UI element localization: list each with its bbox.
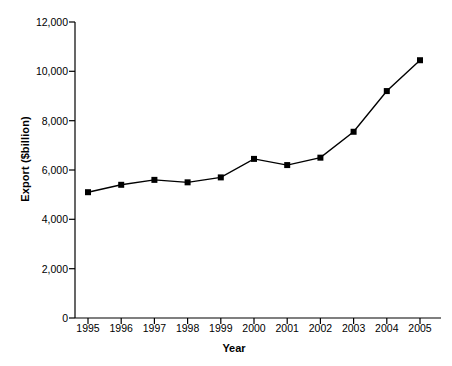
- y-axis-ticks: [69, 22, 75, 318]
- data-point-marker: [284, 162, 290, 168]
- export-line-chart: Export ($billion) 12,000 10,000 8,000 6,…: [0, 0, 452, 366]
- data-series-line: [88, 60, 420, 192]
- x-tick-label-2001: 2001: [276, 322, 299, 334]
- data-point-marker: [384, 88, 390, 94]
- x-tick-label-2000: 2000: [242, 322, 265, 334]
- x-tick-label-2003: 2003: [342, 322, 365, 334]
- x-tick-label-2005: 2005: [408, 322, 431, 334]
- x-tick-label-1998: 1998: [176, 322, 199, 334]
- data-point-marker: [185, 179, 191, 185]
- data-point-marker: [85, 189, 91, 195]
- data-point-marker: [151, 177, 157, 183]
- data-series-markers: [85, 57, 423, 195]
- data-point-marker: [251, 156, 257, 162]
- data-point-marker: [351, 129, 357, 135]
- x-tick-label-1997: 1997: [143, 322, 166, 334]
- x-tick-label-1999: 1999: [209, 322, 232, 334]
- plot-canvas: [0, 0, 452, 366]
- x-tick-label-1995: 1995: [76, 322, 99, 334]
- data-point-marker: [317, 155, 323, 161]
- x-tick-label-1996: 1996: [110, 322, 133, 334]
- data-point-marker: [417, 57, 423, 63]
- x-axis-title-container: Year: [0, 342, 452, 354]
- x-tick-label-2002: 2002: [309, 322, 332, 334]
- data-point-marker: [218, 174, 224, 180]
- data-point-marker: [118, 182, 124, 188]
- x-tick-label-2004: 2004: [375, 322, 398, 334]
- x-axis-title: Year: [222, 342, 245, 354]
